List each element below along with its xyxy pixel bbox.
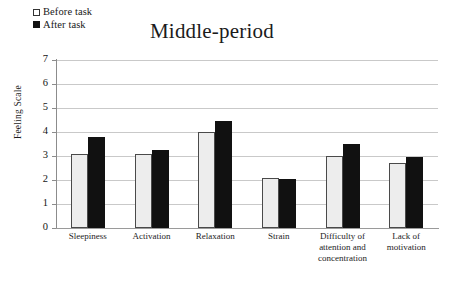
legend-item-before-task: Before task (33, 6, 92, 19)
bar-after-task (343, 144, 360, 228)
y-axis-tick-labels: 01234567 (26, 60, 48, 228)
bar-before-task (262, 178, 279, 228)
y-axis-tick-label: 0 (28, 221, 48, 232)
bar-after-task (406, 157, 423, 228)
y-axis-tick-label: 1 (28, 197, 48, 208)
bar-after-task (279, 179, 296, 228)
y-axis-tick-label: 2 (28, 173, 48, 184)
bar-before-task (135, 154, 152, 228)
x-axis-line (56, 228, 439, 229)
x-axis-tick-label: Lack of motivation (375, 231, 437, 253)
bar-before-task (198, 132, 215, 228)
bar-after-task (152, 150, 169, 228)
legend-swatch-open-square-icon (33, 9, 40, 16)
bar-after-task (88, 137, 105, 228)
y-axis-title: Feeling Scale (13, 67, 23, 157)
legend-label-before-task: Before task (43, 6, 92, 19)
y-axis-tick-label: 7 (28, 53, 48, 64)
bar-chart: Before task After task Middle-period Fee… (0, 0, 460, 282)
legend-item-after-task: After task (33, 19, 92, 32)
x-axis-tick-label: Activation (121, 231, 183, 242)
chart-legend: Before task After task (33, 6, 92, 31)
bar-before-task (389, 163, 406, 228)
bar-series-layer (56, 60, 438, 228)
x-axis-tick-label: Strain (248, 231, 310, 242)
y-axis-tick-label: 5 (28, 101, 48, 112)
legend-swatch-filled-square-icon (33, 21, 40, 28)
x-axis-tick-label: Sleepiness (57, 231, 119, 242)
x-axis-tick-labels: SleepinessActivationRelaxationStrainDiff… (56, 231, 438, 279)
y-axis-tick-label: 6 (28, 77, 48, 88)
y-axis-tick-label: 4 (28, 125, 48, 136)
y-axis-tick-label: 3 (28, 149, 48, 160)
legend-label-after-task: After task (43, 19, 86, 32)
bar-after-task (215, 121, 232, 228)
x-axis-tick-label: Relaxation (184, 231, 246, 242)
bar-before-task (326, 156, 343, 228)
bar-before-task (71, 154, 88, 228)
x-axis-tick-label: Difficulty of attention and concentratio… (312, 231, 374, 264)
chart-title: Middle-period (150, 19, 274, 44)
